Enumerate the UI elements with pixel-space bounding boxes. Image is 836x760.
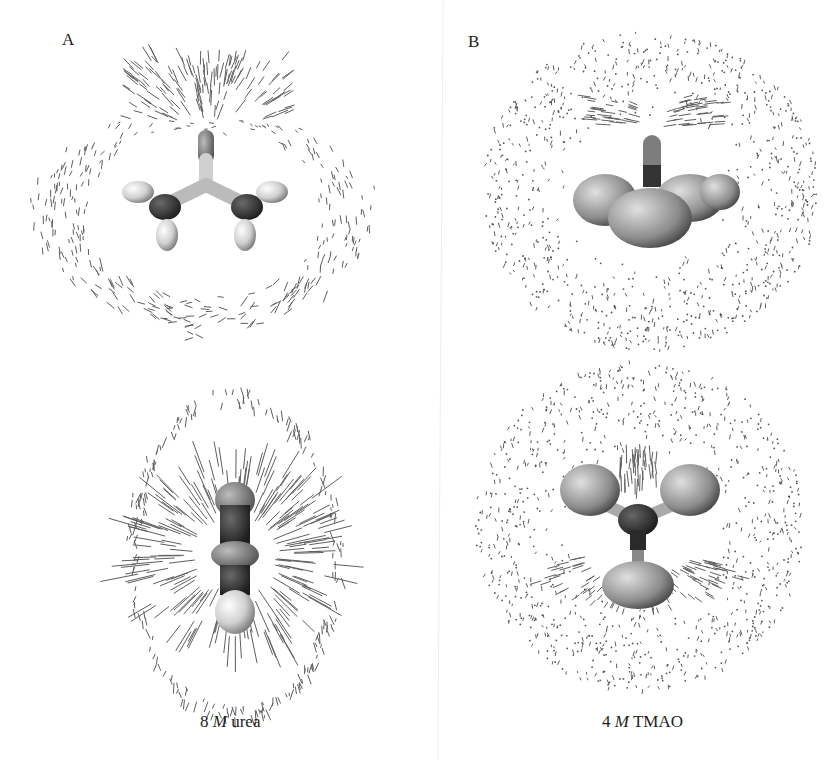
- caption-solute: TMAO: [633, 712, 683, 731]
- urea-illustration: [0, 0, 440, 760]
- caption-unit: M: [213, 712, 227, 731]
- caption-concentration: 4: [602, 712, 611, 731]
- tmao-illustration: [440, 0, 836, 760]
- tmao-top-molecule: [573, 135, 740, 248]
- caption-concentration: 8: [200, 712, 209, 731]
- panel-a-urea: A: [0, 0, 440, 760]
- panel-b-tmao: B: [440, 0, 836, 760]
- caption-urea: 8 M urea: [200, 712, 260, 732]
- caption-tmao: 4 M TMAO: [602, 712, 683, 732]
- caption-solute: urea: [231, 712, 260, 731]
- urea-bottom-molecule: [211, 482, 259, 634]
- urea-top-molecule: [122, 130, 288, 251]
- caption-unit: M: [615, 712, 629, 731]
